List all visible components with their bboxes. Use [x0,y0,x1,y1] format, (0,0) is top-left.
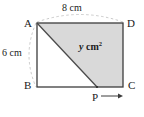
top-dimension-label: 8 cm [62,3,82,13]
area-label: y cm2 [79,42,102,52]
vertex-label-p: P [92,92,98,103]
point-p-marker [96,86,98,88]
motion-arrow-head [118,93,123,98]
vertex-label-a: A [24,18,32,29]
shaded-region [37,23,123,87]
left-dimension-label: 6 cm [2,48,22,58]
figure-canvas [0,0,144,117]
vertex-label-d: D [127,18,135,29]
left-dimension-arc [29,23,36,87]
area-variable: y [79,41,83,52]
area-exponent: 2 [99,40,102,47]
area-unit: cm [86,41,99,52]
top-dimension-arc [37,15,123,23]
vertex-label-b: B [24,80,31,91]
vertex-label-c: C [128,80,135,91]
geometry-figure: A D B C P 8 cm 6 cm y cm2 [0,0,144,117]
